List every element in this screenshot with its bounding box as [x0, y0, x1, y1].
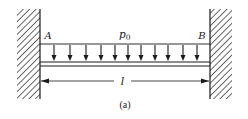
dimension-arrowhead-right-icon [201, 79, 209, 84]
right-fixed-support [210, 9, 232, 99]
down-arrow-icon [153, 55, 158, 61]
down-arrow-icon [166, 55, 171, 61]
down-arrow-icon [126, 55, 131, 61]
down-arrow-icon [84, 55, 89, 61]
down-arrow-icon [139, 55, 144, 61]
dimension-arrowhead-left-icon [41, 79, 49, 84]
beam [40, 62, 210, 66]
load-label-subscript: 0 [126, 33, 131, 42]
left-fixed-support [17, 9, 40, 99]
down-arrow-icon [99, 55, 104, 61]
down-arrow-icon [52, 55, 57, 61]
left-wall-hatch [17, 9, 40, 99]
end-label-b: B [197, 30, 205, 41]
fixed-beam-diagram: l A B p0 (a) [0, 0, 248, 119]
down-arrow-icon [68, 55, 73, 61]
load-label: p0 [119, 28, 131, 42]
end-label-a: A [43, 30, 51, 41]
down-arrow-icon [195, 55, 200, 61]
figure-caption: (a) [119, 99, 130, 111]
span-dimension: l [41, 75, 209, 88]
distributed-load-arrows [52, 45, 200, 61]
down-arrow-icon [181, 55, 186, 61]
span-label: l [121, 75, 125, 88]
down-arrow-icon [113, 55, 118, 61]
right-wall-hatch [210, 9, 232, 99]
